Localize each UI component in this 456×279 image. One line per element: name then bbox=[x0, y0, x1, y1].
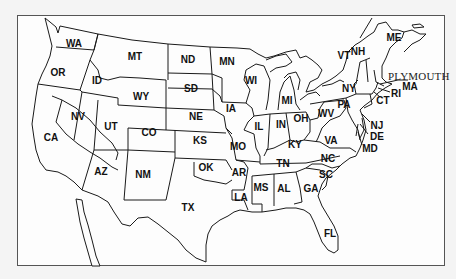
state-label-id: ID bbox=[92, 76, 102, 86]
plymouth-label: PLYMOUTH bbox=[388, 71, 450, 82]
state-label-tn: TN bbox=[276, 159, 289, 169]
state-label-wv: WV bbox=[318, 109, 334, 119]
state-label-wy: WY bbox=[133, 92, 149, 102]
state-label-ia: IA bbox=[226, 104, 236, 114]
state-label-ga: GA bbox=[304, 184, 319, 194]
state-label-oh: OH bbox=[294, 114, 309, 124]
state-label-co: CO bbox=[142, 128, 157, 138]
state-label-fl: FL bbox=[324, 229, 336, 239]
state-label-me: ME bbox=[387, 33, 402, 43]
state-label-la: LA bbox=[234, 193, 247, 203]
state-label-ma: MA bbox=[402, 82, 418, 92]
state-label-sd: SD bbox=[184, 84, 198, 94]
state-label-nm: NM bbox=[135, 170, 151, 180]
state-label-va: VA bbox=[324, 136, 337, 146]
state-label-md: MD bbox=[362, 144, 378, 154]
state-label-ri: RI bbox=[391, 89, 401, 99]
state-label-wa: WA bbox=[66, 39, 82, 49]
state-label-ut: UT bbox=[104, 122, 117, 132]
state-label-ar: AR bbox=[232, 168, 246, 178]
state-label-nj: NJ bbox=[371, 121, 384, 131]
state-label-de: DE bbox=[370, 132, 384, 142]
state-label-al: AL bbox=[277, 184, 290, 194]
state-label-ks: KS bbox=[193, 136, 207, 146]
state-label-nh: NH bbox=[351, 47, 365, 57]
state-label-ca: CA bbox=[44, 133, 58, 143]
state-label-pa: PA bbox=[337, 100, 350, 110]
state-label-nd: ND bbox=[181, 55, 195, 65]
state-label-tx: TX bbox=[182, 203, 195, 213]
state-label-ky: KY bbox=[288, 140, 302, 150]
state-label-nc: NC bbox=[321, 154, 335, 164]
state-label-mt: MT bbox=[128, 52, 142, 62]
state-label-ct: CT bbox=[376, 96, 389, 106]
state-label-vt: VT bbox=[338, 51, 351, 61]
state-label-ok: OK bbox=[199, 163, 214, 173]
baja-california bbox=[76, 199, 100, 266]
state-label-mi: MI bbox=[281, 96, 292, 106]
state-label-sc: SC bbox=[319, 170, 333, 180]
state-label-wi: WI bbox=[245, 76, 257, 86]
state-label-ms: MS bbox=[254, 183, 269, 193]
state-label-ne: NE bbox=[189, 112, 203, 122]
state-label-in: IN bbox=[276, 120, 286, 130]
state-label-nv: NV bbox=[71, 112, 85, 122]
state-label-mn: MN bbox=[219, 57, 235, 67]
state-label-or: OR bbox=[51, 68, 66, 78]
state-label-il: IL bbox=[255, 122, 264, 132]
state-label-mo: MO bbox=[230, 142, 246, 152]
state-label-ny: NY bbox=[342, 84, 356, 94]
state-label-az: AZ bbox=[94, 167, 107, 177]
